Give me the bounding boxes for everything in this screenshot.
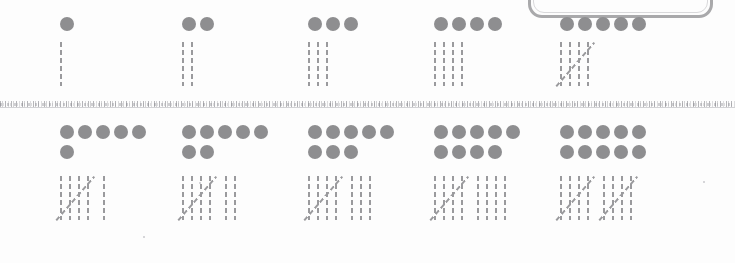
tally-mark-icon [569, 42, 571, 86]
tally-mark-icon [560, 176, 562, 220]
dot-icon [488, 145, 502, 159]
tally-mark-icon [191, 42, 193, 86]
tally-mark-icon [60, 176, 62, 220]
scan-speck [143, 236, 145, 238]
tally-mark-icon [587, 42, 589, 86]
dot-icon [78, 125, 92, 139]
tally-group-of-five [308, 176, 337, 222]
number-cell-3 [308, 14, 428, 88]
divider-texture-band-secondary [0, 103, 735, 106]
number-cell-10 [560, 122, 680, 222]
dot-line [434, 142, 554, 162]
tally-mark-icon [504, 176, 506, 220]
divider-hairline [0, 107, 735, 108]
dot-icon [200, 17, 214, 31]
tally-group-of-five [434, 176, 463, 222]
dot-representation-10 [560, 122, 680, 162]
dot-icon [596, 17, 610, 31]
tally-mark-icon [182, 176, 184, 220]
tally-group-of-five [560, 42, 589, 88]
dot-icon [434, 145, 448, 159]
tally-group-of-five [603, 176, 632, 222]
tally-mark-icon [317, 176, 319, 220]
tally-mark-icon [452, 42, 454, 86]
tally-mark-icon [434, 42, 436, 86]
tally-representation-1 [60, 42, 180, 88]
tally-group [308, 42, 328, 88]
dot-line [308, 122, 428, 142]
dot-line [308, 142, 428, 162]
tally-mark-icon [326, 42, 328, 86]
tally-mark-icon [308, 42, 310, 86]
dot-icon [560, 17, 574, 31]
dot-icon [344, 125, 358, 139]
scan-speck [703, 181, 705, 183]
dot-icon [488, 17, 502, 31]
number-cell-7 [182, 122, 302, 222]
dot-icon [578, 17, 592, 31]
scan-speck [199, 182, 201, 184]
tally-group [477, 176, 506, 222]
tally-mark-icon [69, 176, 71, 220]
dot-line [560, 14, 680, 34]
dot-icon [614, 125, 628, 139]
tally-mark-icon [461, 176, 463, 220]
number-cell-6 [60, 122, 180, 222]
tally-mark-icon [351, 176, 353, 220]
dot-icon [452, 17, 466, 31]
dot-representation-9 [434, 122, 554, 162]
dot-icon [452, 145, 466, 159]
dot-icon [434, 125, 448, 139]
tally-group [351, 176, 371, 222]
dot-icon [434, 17, 448, 31]
tally-mark-icon [434, 176, 436, 220]
dot-representation-5 [560, 14, 680, 34]
tally-group [60, 42, 62, 88]
dot-icon [236, 125, 250, 139]
dot-icon [632, 125, 646, 139]
tally-mark-icon [326, 176, 328, 220]
tally-mark-icon [103, 176, 105, 220]
dot-icon [560, 125, 574, 139]
dot-icon [506, 125, 520, 139]
dot-icon [632, 145, 646, 159]
tally-mark-icon [578, 42, 580, 86]
number-cell-4 [434, 14, 554, 88]
dot-icon [326, 125, 340, 139]
dot-icon [182, 145, 196, 159]
dot-line [560, 142, 680, 162]
dot-icon [218, 125, 232, 139]
dot-line [434, 122, 554, 142]
tally-mark-icon [578, 176, 580, 220]
tally-mark-icon [630, 176, 632, 220]
dot-line [434, 14, 554, 34]
tally-mark-icon [452, 176, 454, 220]
number-cell-9 [434, 122, 554, 222]
dot-icon [132, 125, 146, 139]
worksheet-canvas [0, 0, 735, 263]
tally-representation-6 [60, 176, 180, 222]
tally-mark-icon [477, 176, 479, 220]
horizontal-divider [0, 99, 735, 110]
dot-line [560, 122, 680, 142]
tally-group-of-five [182, 176, 211, 222]
dot-icon [596, 145, 610, 159]
dot-icon [326, 145, 340, 159]
tally-representation-3 [308, 42, 428, 88]
dot-line [182, 142, 302, 162]
tally-mark-icon [234, 176, 236, 220]
tally-representation-10 [560, 176, 680, 222]
dot-line [60, 14, 180, 34]
dot-icon [308, 145, 322, 159]
dot-representation-8 [308, 122, 428, 162]
tally-mark-icon [603, 176, 605, 220]
dot-representation-7 [182, 122, 302, 162]
tally-group-of-five [560, 176, 589, 222]
dot-icon [344, 145, 358, 159]
dot-icon [344, 17, 358, 31]
tally-mark-icon [317, 42, 319, 86]
tally-group [103, 176, 105, 222]
dot-icon [470, 145, 484, 159]
tally-mark-icon [443, 176, 445, 220]
dot-icon [578, 145, 592, 159]
